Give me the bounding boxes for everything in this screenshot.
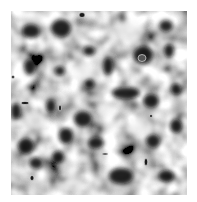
noise-texture <box>11 11 187 195</box>
noise-texture-svg <box>11 11 187 195</box>
